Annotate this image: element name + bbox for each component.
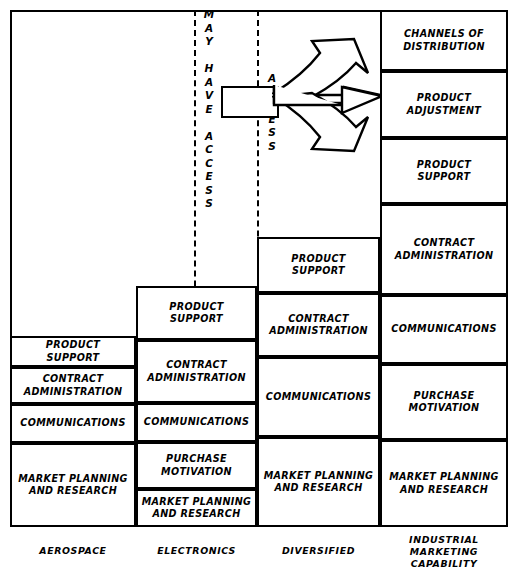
cell-label: PRODUCT SUPPORT (46, 339, 100, 364)
cell-electronics-contract-administration: CONTRACT ADMINISTRATION (136, 340, 257, 403)
cell-label: CONTRACT ADMINISTRATION (24, 373, 123, 398)
cell-label: COMMUNICATIONS (391, 323, 496, 336)
cell-label: MARKET PLANNING AND RESEARCH (264, 470, 374, 495)
cell-aerospace-communications: COMMUNICATIONS (10, 404, 136, 443)
cell-capability-channels-of-distribution: CHANNELS OF DISTRIBUTION (380, 10, 508, 71)
cell-label: CONTRACT ADMINISTRATION (395, 237, 494, 262)
axis-label-aerospace: AEROSPACE (10, 545, 136, 557)
axis-label-industrial-marketing-capability: INDUSTRIAL MARKETING CAPABILITY (380, 534, 508, 570)
cell-capability-product-support: PRODUCT SUPPORT (380, 138, 508, 204)
cell-label: PURCHASE MOTIVATION (161, 453, 232, 478)
cell-label: CHANNELS OF DISTRIBUTION (403, 28, 485, 53)
cell-label: PRODUCT SUPPORT (169, 301, 223, 326)
cell-diversified-contract-administration: CONTRACT ADMINISTRATION (257, 293, 380, 357)
cell-label: PURCHASE MOTIVATION (409, 390, 480, 415)
cell-capability-product-adjustment: PRODUCT ADJUSTMENT (380, 71, 508, 138)
cell-label: MARKET PLANNING AND RESEARCH (389, 471, 499, 496)
cell-electronics-market-planning-and-research: MARKET PLANNING AND RESEARCH (136, 489, 257, 527)
cell-aerospace-market-planning-and-research: MARKET PLANNING AND RESEARCH (10, 443, 136, 527)
cell-capability-contract-administration: CONTRACT ADMINISTRATION (380, 204, 508, 295)
cell-aerospace-product-support: PRODUCT SUPPORT (10, 336, 136, 367)
cell-label: PRODUCT SUPPORT (417, 159, 471, 184)
may-have-access-label: M A Y H A V E A C C E S S (198, 8, 220, 211)
cell-electronics-communications: COMMUNICATIONS (136, 403, 257, 442)
axis-label-diversified: DIVERSIFIED (257, 545, 380, 557)
cell-capability-communications: COMMUNICATIONS (380, 295, 508, 364)
cell-label: CONTRACT ADMINISTRATION (269, 313, 368, 338)
cell-aerospace-contract-administration: CONTRACT ADMINISTRATION (10, 367, 136, 404)
cell-label: COMMUNICATIONS (144, 416, 249, 429)
center-capability-box (221, 86, 279, 118)
diagram-canvas: M A Y H A V E A C C E S S A C C E S S PR… (0, 0, 516, 574)
cell-capability-market-planning-and-research: MARKET PLANNING AND RESEARCH (380, 440, 508, 527)
cell-capability-purchase-motivation: PURCHASE MOTIVATION (380, 364, 508, 440)
cell-diversified-market-planning-and-research: MARKET PLANNING AND RESEARCH (257, 437, 380, 527)
cell-electronics-product-support: PRODUCT SUPPORT (136, 286, 257, 340)
cell-label: CONTRACT ADMINISTRATION (147, 359, 246, 384)
cell-label: MARKET PLANNING AND RESEARCH (18, 473, 128, 498)
cell-label: PRODUCT ADJUSTMENT (407, 92, 481, 117)
cell-label: COMMUNICATIONS (266, 391, 371, 404)
cell-diversified-communications: COMMUNICATIONS (257, 357, 380, 437)
axis-label-electronics: ELECTRONICS (136, 545, 257, 557)
cell-label: COMMUNICATIONS (20, 417, 125, 430)
cell-diversified-product-support: PRODUCT SUPPORT (257, 237, 380, 293)
cell-electronics-purchase-motivation: PURCHASE MOTIVATION (136, 442, 257, 489)
cell-label: PRODUCT SUPPORT (291, 253, 345, 278)
cell-label: MARKET PLANNING AND RESEARCH (142, 496, 252, 521)
three-way-arrow-icon (272, 25, 390, 165)
